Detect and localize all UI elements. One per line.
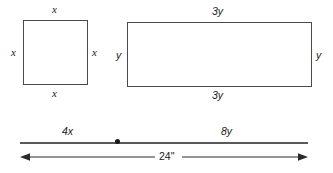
dimension-total-label: 24" <box>157 151 176 162</box>
dimension-right-arrowhead <box>298 153 308 161</box>
geometry-figure: x x x x 3y y y 3y 4x 8y 24" <box>0 0 333 173</box>
dimension-arrow-overlay <box>0 0 333 173</box>
dimension-left-arrowhead <box>20 153 30 161</box>
